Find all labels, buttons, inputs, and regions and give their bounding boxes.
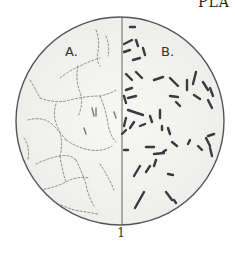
panel-label-a: A. (65, 44, 78, 59)
panel-label-b: B. (161, 44, 174, 59)
figure-number: 1 (116, 226, 126, 240)
microscope-figure: A. B. 1 (0, 0, 235, 279)
